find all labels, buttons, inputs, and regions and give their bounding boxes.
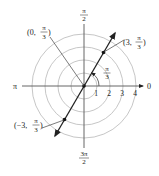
label-point-neg3-pi-3: (−3, π 3 ) (14, 117, 43, 134)
svg-text:2: 2 (107, 89, 111, 98)
svg-text:3: 3 (120, 89, 124, 98)
svg-text:π: π (82, 7, 86, 15)
label-3pi-over-2: 3π 2 (79, 150, 89, 166)
svg-text:(3,: (3, (123, 38, 132, 47)
svg-text:): ) (48, 28, 51, 37)
label-pi-over-2: π 2 (80, 7, 88, 23)
svg-text:π: π (42, 24, 46, 32)
svg-text:π: π (137, 34, 141, 42)
label-pi: π (13, 82, 17, 91)
svg-text:4: 4 (133, 89, 137, 98)
label-point-0-pi-3: (0, π 3 ) (27, 24, 51, 41)
leader-0-pi-3 (50, 37, 84, 86)
svg-text:2: 2 (82, 158, 86, 166)
label-0: 0 (147, 82, 151, 91)
svg-text:3π: 3π (80, 150, 88, 158)
svg-text:3: 3 (42, 33, 46, 41)
svg-text:(0,: (0, (27, 28, 36, 37)
label-angle-pi-over-3: π 3 (104, 65, 111, 81)
svg-text:3: 3 (137, 43, 141, 51)
svg-text:π: π (105, 65, 109, 73)
svg-text:(−3,: (−3, (14, 121, 27, 130)
tick-labels: 1 2 3 4 (94, 89, 137, 98)
svg-text:): ) (143, 38, 146, 47)
label-point-3-pi-3: (3, π 3 ) (123, 34, 146, 51)
svg-text:3: 3 (34, 126, 38, 134)
polar-diagram: 0 π π 2 3π 2 1 2 3 4 π 3 (3, π 3 ) (−3, … (0, 0, 159, 176)
svg-text:): ) (40, 121, 43, 130)
point-neg3-pi-3 (63, 118, 67, 122)
svg-text:1: 1 (94, 89, 98, 98)
svg-text:3: 3 (105, 73, 109, 81)
svg-text:π: π (34, 117, 38, 125)
svg-text:2: 2 (82, 15, 86, 23)
